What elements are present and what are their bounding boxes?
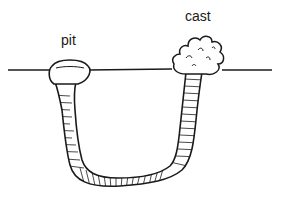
cast-label: cast [185, 8, 211, 24]
burrow-drawing [0, 0, 290, 218]
pit-label: pit [61, 32, 76, 48]
cast-shape [173, 36, 224, 74]
burrow-tube [55, 72, 202, 186]
pit-shape [49, 60, 90, 84]
burrow-diagram: pit cast [0, 0, 290, 218]
